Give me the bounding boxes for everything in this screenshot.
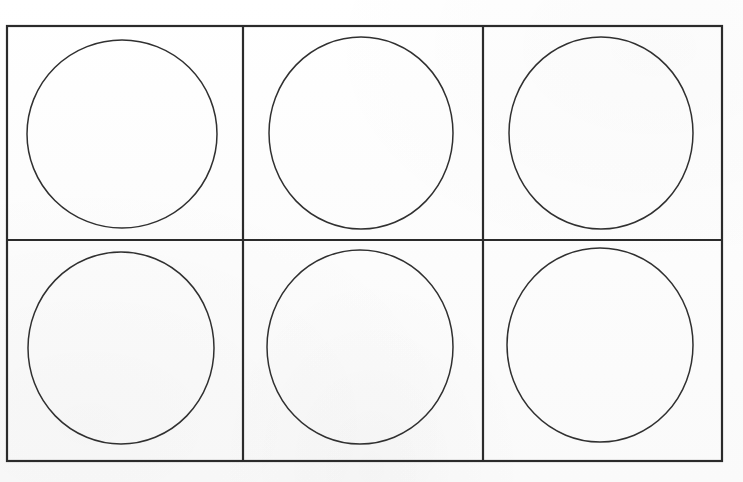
circle-r1c1 bbox=[27, 40, 217, 228]
circle-r1c2 bbox=[269, 37, 453, 229]
circle-r2c2 bbox=[267, 250, 453, 444]
circle-r2c3 bbox=[507, 248, 693, 442]
circle-r2c1 bbox=[28, 252, 214, 444]
worksheet-page bbox=[0, 0, 743, 482]
grid-outer-border bbox=[7, 26, 722, 461]
circle-grid-worksheet bbox=[0, 0, 743, 482]
circle-r1c3 bbox=[509, 37, 693, 229]
